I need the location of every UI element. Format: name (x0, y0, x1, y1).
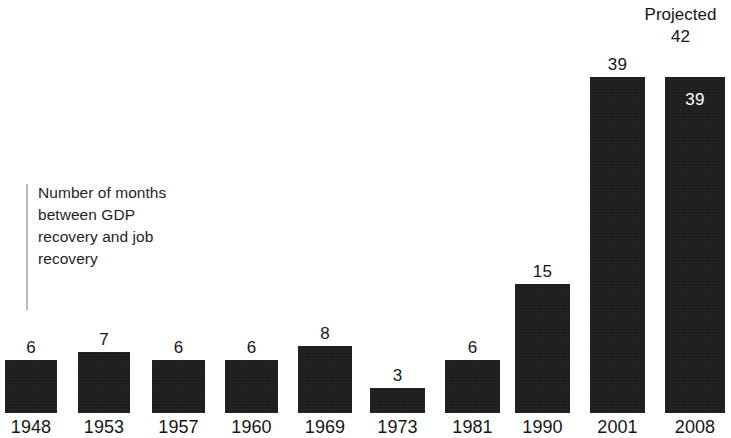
bar-label-2008: 2008 (658, 418, 731, 436)
bar-group-1960: 6 1960 (225, 25, 278, 438)
projected-value: 42 (630, 26, 731, 48)
bar-1990 (515, 284, 570, 413)
bar-label-1973: 1973 (363, 418, 432, 436)
bar-chart: 6 1948 7 1953 6 1957 6 1960 8 1969 (0, 0, 731, 438)
bar-value-1981: 6 (445, 339, 500, 356)
bar-value-1990: 15 (515, 263, 570, 280)
bar-label-1953: 1953 (71, 418, 137, 436)
bar-group-2008: 39 2008 (665, 25, 725, 438)
bar-group-2001: 39 2001 (590, 25, 645, 438)
bar-value-2001: 39 (590, 56, 645, 73)
bar-group-1969: 8 1969 (298, 25, 352, 438)
caption-rule (26, 184, 28, 310)
bar-value-1973: 3 (370, 367, 425, 384)
bar-value-2008: 39 (665, 91, 725, 108)
bar-2001 (590, 77, 645, 413)
series-caption: Number of months between GDP recovery an… (26, 182, 168, 270)
bar-1981 (445, 360, 500, 413)
bar-group-1990: 15 1990 (515, 25, 570, 438)
bar-1969 (298, 346, 352, 413)
bar-label-1948: 1948 (0, 418, 64, 436)
bar-1948 (5, 360, 57, 413)
bar-1960 (225, 360, 278, 413)
bar-label-1960: 1960 (218, 418, 285, 436)
bar-value-1953: 7 (78, 331, 130, 348)
bar-group-1973: 3 1973 (370, 25, 425, 438)
bar-label-1981: 1981 (438, 418, 507, 436)
bar-group-1981: 6 1981 (445, 25, 500, 438)
bar-1973 (370, 388, 425, 413)
bar-label-1957: 1957 (145, 418, 212, 436)
bar-label-2001: 2001 (583, 418, 652, 436)
bar-label-1969: 1969 (291, 418, 359, 436)
bar-2008: 39 (665, 77, 725, 413)
bar-1953 (78, 352, 130, 413)
projected-label: Projected (630, 4, 731, 26)
bar-value-1960: 6 (225, 339, 278, 356)
bar-value-1969: 8 (298, 325, 352, 342)
bar-1957 (152, 360, 205, 413)
bar-value-1957: 6 (152, 339, 205, 356)
bar-label-1990: 1990 (508, 418, 577, 436)
caption-text: Number of months between GDP recovery an… (26, 182, 168, 270)
projected-annotation: Projected 42 (630, 4, 731, 48)
bar-value-1948: 6 (5, 339, 57, 356)
